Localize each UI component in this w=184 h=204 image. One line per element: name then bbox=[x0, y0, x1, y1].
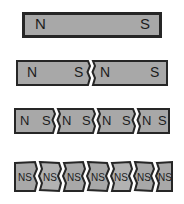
pole-label-north: N bbox=[35, 15, 46, 32]
pole-label-north: N bbox=[27, 64, 37, 80]
magnet-row-4: NS NS NS NS NS NS NS bbox=[0, 156, 184, 200]
row-1-graphic: N S bbox=[0, 6, 184, 46]
pole-label-pair: NS bbox=[18, 172, 32, 183]
pole-label-pair: NS bbox=[137, 172, 151, 183]
pole-label-south: S bbox=[42, 113, 51, 128]
pole-label-pair: NS bbox=[158, 172, 172, 183]
magnet-row-2: N S N S bbox=[0, 56, 184, 92]
row-2-graphic: N S N S bbox=[0, 56, 184, 92]
pole-label-south: S bbox=[82, 113, 91, 128]
pole-label-south: S bbox=[158, 113, 167, 128]
pole-label-pair: NS bbox=[43, 172, 57, 183]
row-3-graphic: N S N S N S N S bbox=[0, 104, 184, 140]
pole-label-north: N bbox=[100, 64, 110, 80]
pole-label-south: S bbox=[122, 113, 131, 128]
magnet-division-diagram: N S N S N S N S N S N bbox=[0, 0, 184, 204]
magnet-row-1: N S bbox=[0, 6, 184, 46]
magnet-row-3: N S N S N S N S bbox=[0, 104, 184, 140]
row-4-graphic: NS NS NS NS NS NS NS bbox=[0, 156, 184, 200]
pole-label-pair: NS bbox=[67, 172, 81, 183]
pole-label-south: S bbox=[150, 64, 159, 80]
pole-label-north: N bbox=[62, 113, 71, 128]
pole-label-south: S bbox=[140, 15, 150, 32]
pole-label-pair: NS bbox=[91, 172, 105, 183]
pole-label-pair: NS bbox=[114, 172, 128, 183]
pole-label-north: N bbox=[102, 113, 111, 128]
pole-label-north: N bbox=[142, 113, 151, 128]
pole-label-south: S bbox=[74, 64, 83, 80]
pole-label-north: N bbox=[20, 113, 29, 128]
